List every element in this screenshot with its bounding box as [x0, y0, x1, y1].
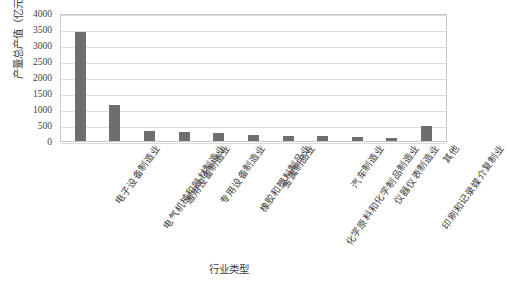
y-tick-label: 1500 [33, 90, 52, 100]
bar[interactable] [179, 132, 190, 141]
plot-area [60, 14, 447, 142]
x-axis-title: 行业类型 [0, 261, 457, 276]
bar[interactable] [421, 126, 432, 141]
bar[interactable] [283, 136, 294, 141]
x-axis-tick-labels: 电子设备制造业电气机械和器材制造业通用设备制造业专用设备制造业橡胶和塑料制品业金… [60, 143, 447, 255]
y-tick-label: 1000 [33, 106, 52, 116]
bar[interactable] [109, 105, 120, 141]
y-tick-label: 4000 [33, 10, 52, 20]
bar[interactable] [144, 131, 155, 141]
bar[interactable] [213, 133, 224, 141]
y-tick-label: 0 [47, 138, 52, 148]
x-tick-label: 电子设备制造业 [114, 143, 163, 207]
y-tick-label: 3500 [33, 26, 52, 36]
y-tick-label: 2000 [33, 74, 52, 84]
bar[interactable] [317, 136, 328, 141]
y-tick-label: 3000 [33, 42, 52, 52]
bar-series [61, 15, 446, 141]
x-tick-label: 化学原料和化学制品制造业 [344, 143, 422, 248]
x-tick-label: 其他 [441, 143, 461, 166]
y-tick-label: 500 [38, 122, 52, 132]
bar[interactable] [352, 137, 363, 141]
x-tick-label: 汽车制造业 [349, 143, 387, 190]
y-axis-tick-labels: 05001000150020002500300035004000 [0, 14, 56, 142]
y-tick-label: 2500 [33, 58, 52, 68]
bar[interactable] [248, 135, 259, 141]
bar[interactable] [386, 138, 397, 141]
bar[interactable] [75, 32, 86, 141]
